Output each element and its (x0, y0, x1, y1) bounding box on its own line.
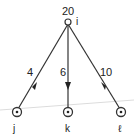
edge-i-l-weight: 10 (100, 67, 112, 78)
diagram-canvas (0, 0, 134, 138)
node-j (13, 108, 22, 117)
arrow-icon-i-l (101, 82, 106, 90)
node-j-label: j (13, 124, 15, 134)
node-i (65, 19, 71, 25)
edge-i-j-weight: 4 (27, 67, 33, 78)
edge-i-k-weight: 6 (60, 67, 66, 78)
node-l (117, 108, 126, 117)
node-i-label: i (76, 17, 78, 27)
node-i-value: 20 (62, 6, 74, 17)
node-l-label: ℓ (118, 124, 121, 134)
node-k (64, 108, 73, 117)
arrow-icon-i-k (65, 82, 71, 90)
node-k-label: k (65, 124, 70, 134)
